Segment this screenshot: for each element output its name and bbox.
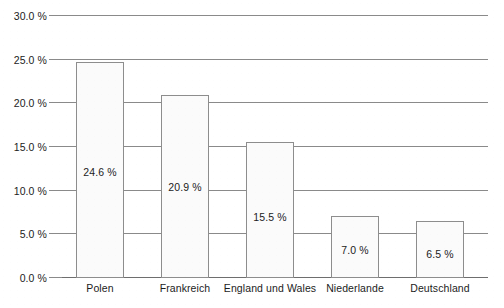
gridline-25 xyxy=(62,59,488,60)
tick-0 xyxy=(49,277,62,278)
bar-value-deutschland: 6.5 % xyxy=(416,249,464,260)
x-axis-label-niederlande: Niederlande xyxy=(315,283,395,294)
bar-value-england-und-wales: 15.5 % xyxy=(246,212,294,223)
bar-value-niederlande: 7.0 % xyxy=(331,245,379,256)
bar-value-frankreich: 20.9 % xyxy=(161,182,209,193)
x-axis-label-frankreich: Frankreich xyxy=(145,283,225,294)
tick-25 xyxy=(49,59,62,60)
y-axis-label-20: 20.0 % xyxy=(0,98,47,109)
x-axis-label-deutschland: Deutschland xyxy=(400,283,480,294)
tick-10 xyxy=(49,190,62,191)
gridline-30 xyxy=(62,15,488,16)
y-axis-label-30: 30.0 % xyxy=(0,11,47,22)
tick-5 xyxy=(49,233,62,234)
x-axis-label-polen: Polen xyxy=(60,283,140,294)
y-axis-label-10: 10.0 % xyxy=(0,186,47,197)
tick-30 xyxy=(49,15,62,16)
bar-england-und-wales xyxy=(246,142,294,278)
bar-value-polen: 24.6 % xyxy=(76,167,124,178)
x-axis-label-england-und-wales: England und Wales xyxy=(222,283,318,294)
y-axis-label-5: 5.0 % xyxy=(0,229,47,240)
y-axis-label-15: 15.0 % xyxy=(0,142,47,153)
y-axis-label-25: 25.0 % xyxy=(0,55,47,66)
tick-15 xyxy=(49,146,62,147)
gridline-20 xyxy=(62,102,488,103)
bar-chart: 30.0 % 25.0 % 20.0 % 15.0 % 10.0 % 5.0 %… xyxy=(0,0,504,308)
tick-20 xyxy=(49,102,62,103)
y-axis-label-0: 0.0 % xyxy=(0,273,47,284)
